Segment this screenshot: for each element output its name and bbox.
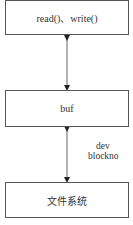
edge-label-blockno: blockno: [88, 151, 119, 161]
node-label: 文件系统: [47, 193, 87, 208]
node-label: read()、write(): [36, 10, 97, 25]
node-filesystem: 文件系统: [5, 182, 129, 218]
node-label: buf: [60, 103, 73, 114]
node-read-write: read()、write(): [5, 0, 129, 35]
edge-label-dev: dev: [96, 141, 110, 151]
node-buf: buf: [5, 90, 129, 127]
